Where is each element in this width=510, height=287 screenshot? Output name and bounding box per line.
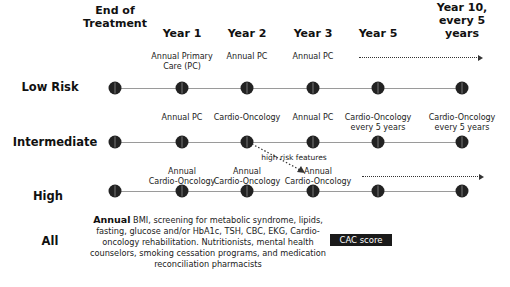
int-year3-note: Annual PC (293, 113, 334, 123)
low-dot-end (109, 82, 122, 95)
row-label-all: All (42, 234, 59, 248)
high-year3-note: Annual Cardio-Oncology (285, 167, 352, 187)
all-row-description: Annual BMI, screening for metabolic synd… (88, 214, 328, 270)
high-dot-y3 (307, 185, 320, 198)
int-year5-note: Cardio-Oncology every 5 years (345, 113, 412, 133)
row-label-low-risk: Low Risk (21, 80, 78, 94)
low-year1-note: Annual Primary Care (PC) (151, 52, 212, 72)
column-header-end-of-treatment: End of Treatment (83, 4, 147, 30)
low-dot-y3 (307, 82, 320, 95)
high-dot-y1 (176, 185, 189, 198)
high-dot-y10 (456, 185, 469, 198)
low-year2-note: Annual PC (227, 52, 268, 62)
low-dot-y5 (372, 82, 385, 95)
low-year3-note: Annual PC (293, 52, 334, 62)
low-continuation-arrow (359, 57, 479, 58)
low-dot-y1 (176, 82, 189, 95)
row-label-intermediate: Intermediate (13, 135, 97, 149)
high-dot-end (109, 185, 122, 198)
high-continuation-arrow (362, 176, 480, 177)
all-row-bold-lead: Annual (93, 214, 130, 225)
int-dot-end (109, 136, 122, 149)
cac-score-badge: CAC score (330, 234, 392, 246)
row-label-high: High (33, 189, 63, 203)
int-year2-note: Cardio-Oncology (214, 113, 281, 123)
int-year1-note: Annual PC (162, 113, 203, 123)
int-dot-y5 (372, 136, 385, 149)
low-dot-y2 (241, 82, 254, 95)
high-dot-y2 (241, 185, 254, 198)
low-dot-y10 (456, 82, 469, 95)
column-header-year-1: Year 1 (163, 27, 202, 40)
column-header-year-3: Year 3 (294, 27, 333, 40)
high-timeline (115, 191, 462, 192)
int-dot-y1 (176, 136, 189, 149)
column-header-year-10: Year 10, every 5 years (437, 1, 488, 40)
high-dot-y5 (372, 185, 385, 198)
column-header-year-2: Year 2 (228, 27, 267, 40)
int-year10-note: Cardio-Oncology every 5 years (429, 113, 496, 133)
arrowhead-icon (478, 55, 483, 61)
int-dot-y10 (456, 136, 469, 149)
low-timeline (115, 88, 462, 89)
arrowhead-icon (479, 174, 484, 180)
column-header-year-5: Year 5 (359, 27, 398, 40)
high-risk-features-label: high risk features (261, 153, 327, 163)
